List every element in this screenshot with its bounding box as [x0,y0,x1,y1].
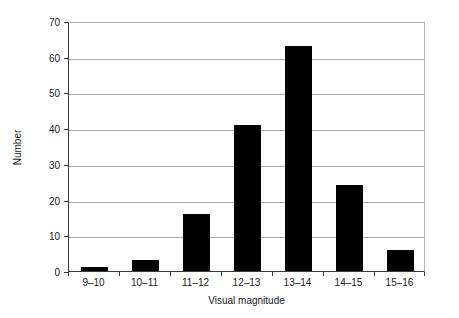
y-axis-tick-label: 50 [49,88,60,99]
x-axis-tick-mark [374,272,375,276]
y-axis-tick-labels: 010203040506070 [36,22,60,272]
bar [81,267,108,271]
bar [387,250,414,271]
bar [336,185,363,271]
x-axis-tick-mark [68,272,69,276]
x-axis-tick-label: 14–15 [335,277,363,288]
y-axis-tick-label: 30 [49,159,60,170]
y-axis-tick-label: 40 [49,124,60,135]
x-axis-tick-label: 13–14 [284,277,312,288]
x-axis-tick-label: 10–11 [131,277,158,288]
bar [183,214,210,271]
bar-chart: Number 010203040506070 9–1010–1111–1212–… [0,0,459,318]
x-axis-tick-labels: 9–1010–1111–1212–1313–1414–1515–16 [68,277,425,293]
y-axis-title-label: Number [13,129,24,165]
y-axis-tick-label: 10 [49,231,60,242]
bars-group [69,23,424,271]
x-axis-tick-label: 15–16 [386,277,414,288]
x-axis-tick-label: 12–13 [233,277,261,288]
x-axis-tick-label: 9–10 [82,277,104,288]
bar [234,125,261,271]
x-axis-tick-label: 11–12 [182,277,209,288]
x-axis-tick-mark [323,272,324,276]
x-axis-tick-mark [424,272,425,276]
y-axis-tick-label: 70 [49,17,60,28]
y-axis-title: Number [8,22,28,272]
bar [285,46,312,271]
y-axis-tick-label: 60 [49,52,60,63]
bar [132,260,159,271]
x-axis-tick-mark [170,272,171,276]
x-axis-tick-mark [119,272,120,276]
x-axis-title: Visual magnitude [68,295,425,306]
x-axis-tick-mark [221,272,222,276]
y-axis-tick-label: 20 [49,195,60,206]
x-axis-tick-mark [272,272,273,276]
plot-area [68,22,425,272]
y-axis-tick-label: 0 [54,267,60,278]
